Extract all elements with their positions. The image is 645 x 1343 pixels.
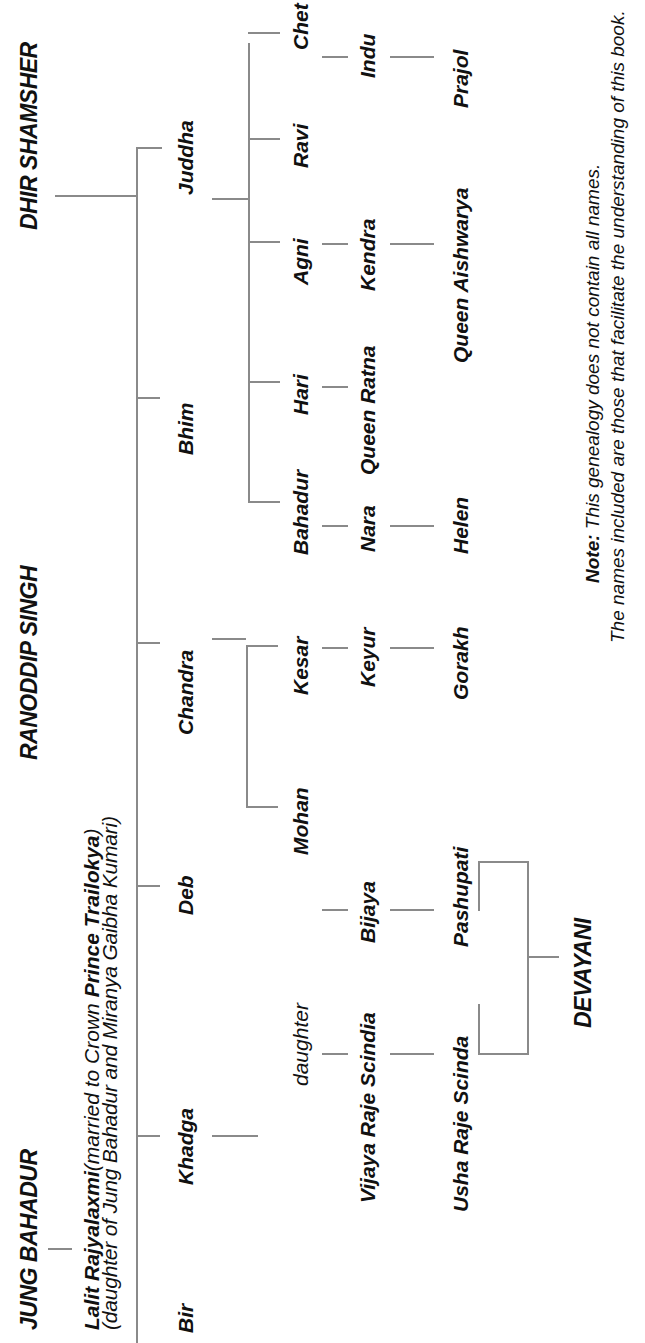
genealogy-diagram: JUNG BAHADUR RANODDIP SINGH DHIR SHAMSHE…: [0, 0, 645, 1343]
tick-bahadur: [248, 501, 280, 503]
lalit-rajyalaxmi: Lalit Rajyalaxmi(married to Crown Prince…: [83, 816, 119, 1330]
tick-ravi: [248, 138, 280, 140]
person-vijaya-raje-scindia: Vijaya Raje Scindia: [357, 1012, 378, 1203]
connector-pashupati-right: [478, 861, 480, 911]
connector-vijaya-usha: [390, 1053, 434, 1055]
person-bhim: Bhim: [175, 403, 196, 456]
bracket-pashupati-drop: [478, 861, 528, 863]
person-gorakh: Gorakh: [450, 626, 471, 700]
person-daughter: daughter: [290, 1003, 311, 1086]
connector-kesar-keyur: [322, 647, 348, 649]
connector-nara-helen: [390, 525, 434, 527]
person-hari: Hari: [290, 374, 311, 415]
tick-bhim: [136, 397, 160, 399]
tick-kesar: [246, 645, 278, 647]
bracket-chandra-children: [246, 645, 248, 808]
tick-chet: [248, 32, 280, 34]
root-dhir-shamsher: DHIR SHAMSHER: [18, 42, 41, 230]
connector-devayani: [527, 956, 559, 958]
person-ravi: Ravi: [290, 124, 311, 168]
root-jung-bahadur: JUNG BAHADUR: [18, 1149, 41, 1330]
person-chet: Chet: [290, 3, 311, 50]
person-keyur: Keyur: [357, 627, 378, 687]
lalit-parentage: (daughter of Jung Bahadur and Miranya Ga…: [101, 816, 119, 1330]
person-pashupati: Pashupati: [450, 847, 471, 947]
person-prajol: Prajol: [450, 50, 471, 108]
connector-khadga-daughter: [212, 1135, 258, 1137]
tick-hari: [248, 381, 280, 383]
person-helen: Helen: [450, 497, 471, 554]
person-deb: Deb: [175, 875, 196, 915]
person-khadga: Khadga: [175, 1108, 196, 1185]
person-kendra: Kendra: [357, 219, 378, 291]
person-usha-raje-scinda: Usha Raje Scinda: [450, 1036, 471, 1212]
tick-mohan: [246, 806, 278, 808]
connector-chandra-down: [212, 638, 246, 640]
connector-usha-right: [478, 1004, 480, 1054]
person-indu: Indu: [357, 34, 378, 78]
connector-daughter-vijaya: [322, 1053, 348, 1055]
root-ranoddip-singh: RANODDIP SINGH: [18, 566, 41, 760]
connector-bijaya-pashupati: [390, 909, 434, 911]
person-kesar: Kesar: [290, 637, 311, 695]
person-chandra: Chandra: [175, 650, 196, 735]
connector-dhir-trunk: [55, 195, 137, 197]
tick-agni: [248, 241, 280, 243]
note-line2: The names included are those that facili…: [608, 10, 627, 643]
trunk-line: [136, 147, 138, 1343]
connector-hari-ratna: [322, 386, 348, 388]
connector-juddha-drop: [136, 147, 162, 149]
person-bahadur: Bahadur: [290, 470, 311, 555]
connector-kendra-aishwarya: [390, 243, 434, 245]
person-queen-aishwarya: Queen Aishwarya: [450, 188, 471, 363]
connector-agni-kendra: [322, 243, 348, 245]
person-bijaya: Bijaya: [357, 881, 378, 943]
connector-juddha-down: [212, 198, 248, 200]
tick-deb: [136, 885, 160, 887]
person-bir: Bir: [175, 1304, 196, 1333]
person-agni: Agni: [290, 238, 311, 285]
note-line1: Note: This genealogy does not contain al…: [583, 164, 602, 583]
connector-chet-indu: [322, 56, 348, 58]
connector-bahadur-nara: [322, 525, 348, 527]
person-mohan: Mohan: [290, 787, 311, 855]
note-text-1: This genealogy does not contain all name…: [582, 164, 603, 535]
person-nara: Nara: [357, 505, 378, 552]
person-devayani: DEVAYANI: [572, 918, 595, 1028]
bracket-juddha-children: [248, 43, 250, 503]
person-juddha: Juddha: [175, 120, 196, 195]
note-label: Note:: [582, 534, 603, 583]
tick-khadga: [136, 1135, 160, 1137]
bracket-devayani-parents: [527, 861, 529, 1055]
connector-indu-prajol: [390, 56, 434, 58]
bracket-usha-drop: [478, 1053, 528, 1055]
connector-mohan-bijaya: [322, 909, 348, 911]
connector-keyur-gorakh: [390, 647, 434, 649]
connector-jung-lalit: [48, 1248, 72, 1250]
tick-chandra: [136, 642, 160, 644]
person-queen-ratna: Queen Ratna: [357, 345, 378, 475]
